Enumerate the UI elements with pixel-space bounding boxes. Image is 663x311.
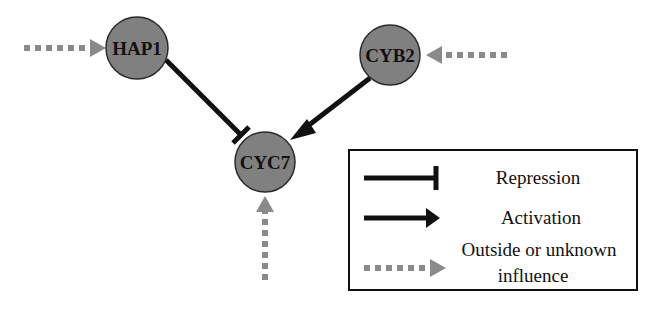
regulatory-network-diagram: HAP1 CYB2 CYC7 Repression Activation Out…: [0, 0, 663, 311]
node-cyb2-label: CYB2: [365, 45, 415, 66]
legend-repression-label: Repression: [496, 167, 581, 188]
outside-influence-cyc7-arrow: [256, 196, 274, 280]
legend-outside-label-line2: influence: [498, 265, 569, 286]
activation-edge-cyb2-cyc7: [290, 78, 370, 140]
node-cyc7: CYC7: [235, 132, 295, 192]
node-hap1: HAP1: [106, 17, 168, 79]
legend: Repression Activation Outside or unknown…: [349, 150, 637, 290]
legend-outside-label-line1: Outside or unknown: [461, 239, 617, 260]
repression-edge-hap1-cyc7: [166, 60, 249, 143]
legend-activation-label: Activation: [501, 207, 582, 228]
node-cyc7-label: CYC7: [240, 152, 291, 173]
outside-influence-hap1-arrow: [24, 39, 106, 57]
node-cyb2: CYB2: [360, 25, 420, 85]
node-hap1-label: HAP1: [112, 38, 162, 59]
outside-influence-cyb2-arrow: [426, 46, 507, 64]
